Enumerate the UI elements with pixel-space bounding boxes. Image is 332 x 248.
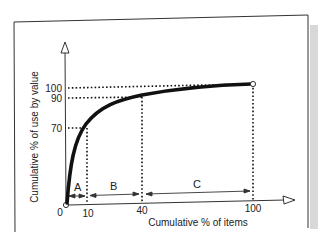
y-axis-arrow-icon xyxy=(61,42,69,53)
x-tick-10: 10 xyxy=(82,208,94,219)
reference-lines xyxy=(68,84,253,205)
y-tick-90: 90 xyxy=(51,93,63,104)
cumulative-curve xyxy=(67,84,251,203)
x-tick-40: 40 xyxy=(136,205,148,216)
region-arrows xyxy=(69,189,250,198)
x-tick-0: 0 xyxy=(57,207,63,218)
region-label-c: C xyxy=(193,178,201,190)
region-label-a: A xyxy=(74,181,82,193)
x-axis-arrow-icon xyxy=(283,196,295,204)
y-tick-70: 70 xyxy=(51,123,63,134)
x-axis-title: Cumulative % of items xyxy=(148,217,247,228)
region-label-b: B xyxy=(110,180,117,192)
frame-shadow xyxy=(310,25,318,229)
x-tick-100: 100 xyxy=(245,203,262,214)
abc-analysis-chart: A B C 100 90 70 0 10 40 100 Cumulative %… xyxy=(0,0,332,248)
curve-end-marker xyxy=(250,81,255,86)
y-axis-title: Cumulative % of use by value xyxy=(29,71,40,203)
